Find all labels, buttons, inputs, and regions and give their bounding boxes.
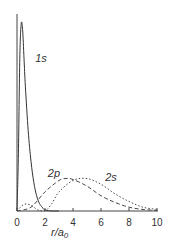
x-tick-label: 2 xyxy=(42,217,48,228)
curve-label-2p: 2p xyxy=(47,167,60,179)
x-tick-label: 10 xyxy=(151,217,163,228)
curve-label-2s: 2s xyxy=(104,171,117,183)
series-1s xyxy=(17,22,59,211)
x-tick-label: 0 xyxy=(14,217,20,228)
curve-labels: 1s2p2s xyxy=(35,52,117,182)
x-tick-label: 6 xyxy=(98,217,104,228)
x-tick-label: 4 xyxy=(70,217,76,228)
chart: 0246810 1s2p2s r/a0 xyxy=(0,0,173,251)
series-2s xyxy=(17,178,157,211)
series-2p xyxy=(17,178,157,211)
plot-area xyxy=(17,22,157,211)
x-axis-label: r/a0 xyxy=(51,226,69,240)
curve-label-1s: 1s xyxy=(35,52,47,64)
x-tick-label: 8 xyxy=(126,217,132,228)
